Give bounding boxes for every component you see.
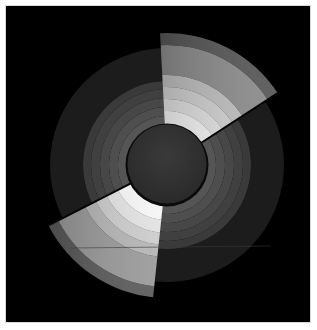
center-hub — [128, 125, 207, 204]
polar-chart — [0, 0, 317, 330]
